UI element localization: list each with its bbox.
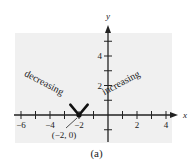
x-tick-label: −4 <box>45 120 55 130</box>
figure-caption: (a) <box>0 147 193 159</box>
graph: xy−6−4−22424 decreasingincreasing(−2, 0) <box>0 0 193 167</box>
vertex-coordinate-label: (−2, 0) <box>52 130 77 140</box>
x-tick-label: −6 <box>16 120 26 130</box>
x-tick-label: 2 <box>135 120 140 130</box>
y-tick-label: 4 <box>98 51 103 61</box>
vertex-point <box>76 112 81 117</box>
y-axis-label: y <box>105 11 110 21</box>
y-axis-arrow-icon <box>105 25 111 33</box>
x-tick-label: 4 <box>164 120 169 130</box>
plot-background <box>15 33 172 143</box>
x-axis-arrow-icon <box>170 112 178 118</box>
x-tick-label: −2 <box>74 120 84 130</box>
x-axis-label: x <box>182 110 187 120</box>
